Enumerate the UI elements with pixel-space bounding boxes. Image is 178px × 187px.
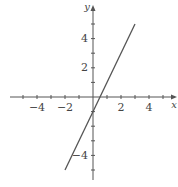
chart-canvas: −4 −2 2 4 4 2 −4 x y [0, 0, 178, 187]
x-tick-label: −4 [29, 101, 45, 114]
y-axis-arrow-icon [91, 5, 96, 11]
x-tick-label: −2 [57, 101, 73, 114]
y-tick-label: 4 [81, 32, 88, 45]
y-axis-label: y [83, 1, 90, 12]
x-tick-label: 4 [146, 101, 153, 114]
x-axis-label: x [171, 99, 177, 110]
y-tick-label: 2 [81, 61, 88, 74]
x-tick-label: 2 [118, 101, 125, 114]
